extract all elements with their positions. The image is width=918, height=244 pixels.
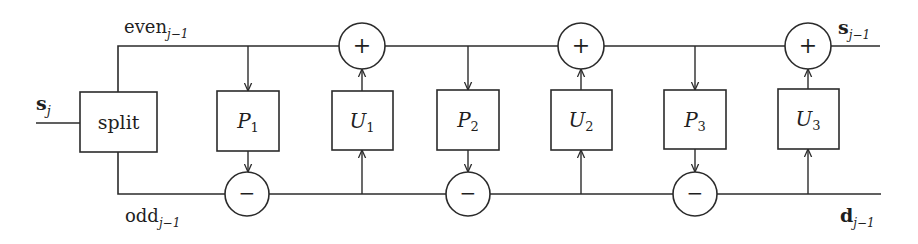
subtract-symbol-1: −: [239, 181, 256, 205]
input-label: sj: [36, 92, 51, 118]
output-s-label: sj−1: [838, 16, 870, 42]
even-label: evenj−1: [124, 16, 189, 41]
split-label: split: [98, 111, 140, 133]
odd-label: oddj−1: [125, 205, 180, 230]
add-symbol-1: +: [353, 33, 371, 58]
add-symbol-2: +: [572, 33, 590, 58]
output-d-label: dj−1: [840, 204, 875, 230]
lifting-scheme-diagram: sj split evenj−1 oddj−1 sj−1 dj−1 P1 − U…: [0, 0, 918, 244]
odd-wire: [118, 152, 225, 194]
subtract-symbol-3: −: [687, 181, 704, 205]
even-wire: [118, 46, 339, 92]
add-symbol-3: +: [799, 33, 817, 58]
subtract-symbol-2: −: [460, 181, 477, 205]
